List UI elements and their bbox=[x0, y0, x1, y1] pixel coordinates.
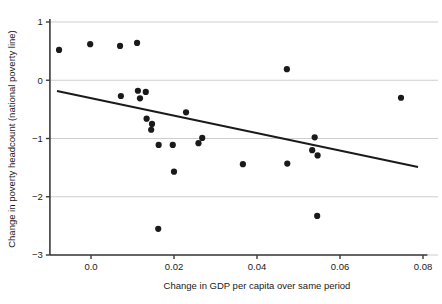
scatter-plot: 10−1−2−3 0.00.020.040.060.08 Change in G… bbox=[0, 0, 442, 304]
regression-line bbox=[57, 91, 418, 167]
y-tick-label: 0 bbox=[38, 75, 43, 86]
data-point bbox=[56, 47, 62, 53]
data-point bbox=[148, 127, 154, 133]
data-point bbox=[398, 95, 404, 101]
data-point bbox=[309, 147, 315, 153]
data-point bbox=[170, 142, 176, 148]
data-point bbox=[314, 152, 320, 158]
x-axis-title: Change in GDP per capita over same perio… bbox=[164, 280, 351, 291]
data-point bbox=[135, 88, 141, 94]
y-axis-title: Change in poverty headcount (national po… bbox=[6, 30, 17, 248]
data-point bbox=[137, 95, 143, 101]
data-point bbox=[143, 89, 149, 95]
x-tick-labels: 0.00.020.040.060.08 bbox=[84, 261, 432, 272]
data-point bbox=[314, 213, 320, 219]
data-point bbox=[199, 135, 205, 141]
chart-container: 10−1−2−3 0.00.020.040.060.08 Change in G… bbox=[0, 0, 442, 304]
x-tick-label: 0.02 bbox=[165, 261, 184, 272]
x-tick-label: 0.08 bbox=[414, 261, 433, 272]
gridlines bbox=[50, 22, 438, 255]
data-point bbox=[155, 226, 161, 232]
y-tick-label: −2 bbox=[32, 191, 43, 202]
data-point bbox=[149, 121, 155, 127]
x-tick-label: 0.06 bbox=[331, 261, 350, 272]
y-tick-labels: 10−1−2−3 bbox=[32, 16, 43, 260]
trend-line bbox=[57, 91, 418, 167]
data-point bbox=[134, 40, 140, 46]
data-point bbox=[183, 109, 189, 115]
data-point bbox=[87, 41, 93, 47]
data-point bbox=[171, 169, 177, 175]
y-tick-label: 1 bbox=[38, 16, 43, 27]
data-points bbox=[56, 40, 404, 232]
data-point bbox=[118, 93, 124, 99]
x-tick-label: 0.04 bbox=[248, 261, 267, 272]
data-point bbox=[144, 116, 150, 122]
data-point bbox=[284, 66, 290, 72]
data-point bbox=[284, 160, 290, 166]
data-point bbox=[117, 43, 123, 49]
x-tick-label: 0.0 bbox=[84, 261, 97, 272]
y-tick-label: −1 bbox=[32, 133, 43, 144]
data-point bbox=[156, 142, 162, 148]
data-point bbox=[312, 134, 318, 140]
y-tick-label: −3 bbox=[32, 249, 43, 260]
data-point bbox=[195, 140, 201, 146]
data-point bbox=[240, 161, 246, 167]
